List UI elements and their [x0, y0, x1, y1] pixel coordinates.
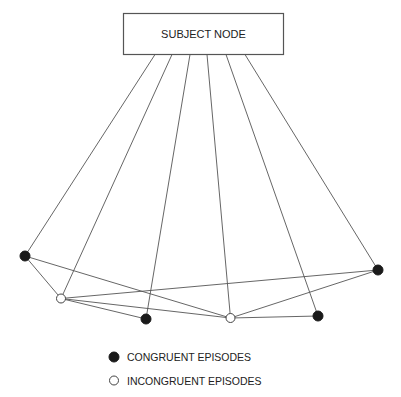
edge-subject-to-i2	[207, 55, 231, 319]
edge-c1-i1	[25, 256, 61, 299]
legend-congruent-marker-icon	[109, 352, 119, 362]
legend-incongruent-marker-icon	[110, 376, 119, 385]
incongruent-episode-node-i2	[226, 314, 235, 323]
legend-item-congruent: CONGRUENT EPISODES	[109, 351, 251, 363]
incongruent-episode-node-i1	[57, 294, 66, 303]
edge-i2-c3	[231, 316, 319, 318]
subject-node: SUBJECT NODE	[124, 14, 284, 55]
congruent-episode-node-c4	[373, 265, 383, 275]
congruent-episode-node-c3	[313, 311, 323, 321]
episodes-layer	[20, 251, 383, 324]
congruent-episode-node-c1	[20, 251, 30, 261]
legend-item-incongruent: INCONGRUENT EPISODES	[110, 375, 262, 387]
subject-node-label: SUBJECT NODE	[161, 28, 246, 40]
edge-subject-to-c1	[25, 55, 155, 257]
legend: CONGRUENT EPISODES INCONGRUENT EPISODES	[109, 351, 262, 387]
legend-incongruent-label: INCONGRUENT EPISODES	[127, 375, 262, 387]
congruent-episode-node-c2	[141, 314, 151, 324]
edge-i1-c2	[61, 299, 146, 320]
edge-i1-c4	[61, 270, 378, 299]
edge-c1-i2	[25, 256, 231, 318]
edge-subject-to-c2	[146, 55, 190, 320]
edge-subject-to-c4	[245, 55, 378, 271]
edges-layer	[25, 55, 378, 320]
legend-congruent-label: CONGRUENT EPISODES	[127, 351, 251, 363]
episode-network-diagram: SUBJECT NODE CONGRUENT EPISODES INCONGRU…	[0, 0, 401, 397]
